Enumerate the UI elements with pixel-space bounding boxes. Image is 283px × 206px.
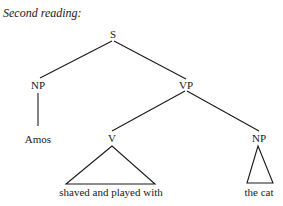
leaf-v-phrase: shaved and played with: [59, 186, 163, 198]
node-v: V: [108, 132, 116, 144]
triangle-v: [66, 146, 155, 184]
syntax-tree: S NP Amos VP V shaved and played with NP…: [0, 0, 283, 206]
edge-s-np: [40, 41, 112, 78]
node-s: S: [110, 28, 116, 40]
triangle-np: [247, 146, 273, 183]
leaf-the-cat: the cat: [244, 186, 273, 198]
node-vp: VP: [179, 79, 193, 91]
edge-s-vp: [114, 41, 186, 79]
leaf-amos: Amos: [25, 133, 51, 145]
edge-vp-np: [187, 91, 259, 131]
node-np-subject: NP: [31, 79, 45, 91]
edge-vp-v: [112, 91, 185, 131]
node-np-object: NP: [252, 132, 266, 144]
